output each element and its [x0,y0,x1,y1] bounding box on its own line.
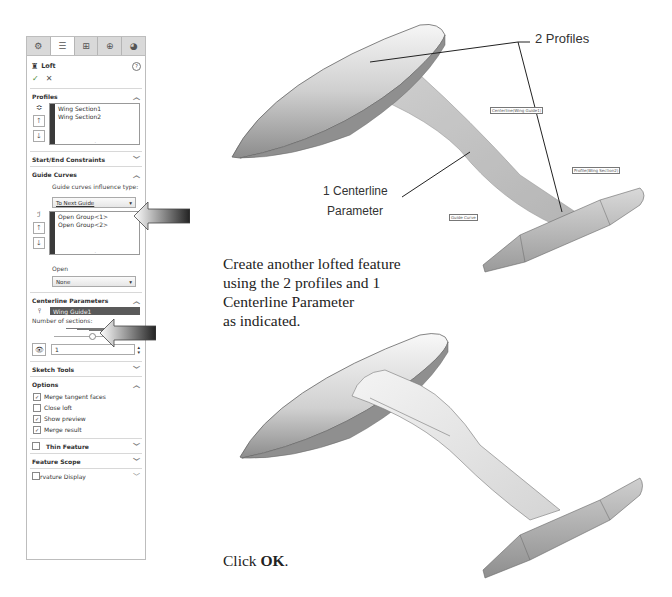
chevron-up-icon: ︿ [133,295,140,305]
loft-property-manager: ⚙ ☰ ⊞ ⊕ ◕ ♜ Loft ? ✓ ✕ Profiles︿ ≎ 🡑 🡓 W… [26,36,146,560]
move-up-button[interactable]: 🡑 [33,115,45,127]
callout-arrow-icon [134,201,190,231]
guide-curves-header[interactable]: Guide Curves︿ [30,167,142,181]
feature-manager-icon: ⚙ [34,41,42,51]
profiles-header[interactable]: Profiles︿ [30,89,142,103]
chevron-down-icon: ﹀ [133,364,140,374]
display-manager-icon: ◕ [130,41,138,51]
open-dropdown[interactable]: None▾ [52,276,136,287]
profiles-list[interactable]: Wing Section1 Wing Section2 · [49,103,140,145]
thin-feature-checkbox[interactable] [32,442,40,450]
profile-icon: ≎ [36,103,43,112]
property-manager-tab[interactable]: ☰ [51,37,75,55]
loft-preview-model [220,0,672,280]
display-manager-tab[interactable]: ◕ [122,37,145,55]
list-item[interactable]: Open Group<1> [58,213,108,221]
move-up-button[interactable]: 🡑 [33,222,45,234]
panel-header: ♜ Loft ? [27,56,145,72]
move-down-button[interactable]: 🡓 [33,130,45,142]
dropdown-arrow-icon: ▾ [129,200,132,206]
close-loft-checkbox[interactable]: Close loft [30,402,142,413]
centerline-annotation-line2: Parameter [327,204,383,218]
merge-result-checkbox[interactable]: ✓Merge result [30,424,142,435]
checkbox-checked-icon[interactable]: ✓ [33,393,41,401]
chevron-up-icon: ︿ [133,91,140,101]
centerline-tag: Centerline(Wing Guide1) [490,107,543,114]
loft-icon: ♜ [31,62,38,71]
help-icon[interactable]: ? [132,62,141,71]
influence-type-dropdown[interactable]: To Next Guide▾ [52,197,136,208]
dropdown-arrow-icon: ▾ [129,279,132,285]
checkbox-checked-icon[interactable]: ✓ [33,426,41,434]
profile-tag: Profile(Wing Section2) [572,167,620,174]
thin-feature-section: Thin Feature﹀ [30,438,142,453]
manager-tabs: ⚙ ☰ ⊞ ⊕ ◕ [27,37,145,56]
profiles-annotation: 2 Profiles [535,31,589,46]
property-manager-icon: ☰ [58,41,66,51]
options-section: Options︿ ✓Merge tangent faces Close loft… [30,376,142,438]
configuration-manager-icon: ⊞ [82,41,90,51]
centerline-selection[interactable]: Wing Guide1 [50,307,140,315]
curvature-display-section: rvature Display﹀ [30,468,142,483]
configuration-manager-tab[interactable]: ⊞ [75,37,99,55]
chevron-down-icon: ﹀ [133,441,140,451]
curvature-display-header[interactable]: rvature Display﹀ [30,469,142,483]
show-preview-checkbox[interactable]: ✓Show preview [30,413,142,424]
chevron-down-icon: ﹀ [133,471,140,481]
curvature-display-checkbox[interactable] [32,472,40,480]
influence-label: Guide curves influence type: [30,181,142,192]
guide-curve-tag: Guide Curve [449,214,478,221]
panel-title: Loft [41,62,132,70]
sketch-tools-section: Sketch Tools﹀ [30,361,142,376]
chevron-down-icon: ﹀ [133,456,140,466]
feature-scope-header[interactable]: Feature Scope﹀ [30,454,142,468]
feature-manager-tab[interactable]: ⚙ [27,37,51,55]
chevron-up-icon: ︿ [133,169,140,179]
start-end-header[interactable]: Start/End Constraints﹀ [30,152,142,166]
open-label: Open [30,263,142,274]
thin-feature-header[interactable]: Thin Feature﹀ [30,439,142,453]
checkbox-unchecked-icon[interactable] [33,404,41,412]
ok-emphasis: OK [260,552,284,569]
guide-curves-list[interactable]: Open Group<1> Open Group<2> · [49,211,140,255]
dimxpert-tab[interactable]: ⊕ [98,37,122,55]
guide-curves-section: Guide Curves︿ Guide curves influence typ… [30,166,142,292]
centerline-annotation-line1: 1 Centerline [323,184,388,198]
callout-arrow-icon [100,318,156,348]
loft-result-model [220,320,672,590]
preview-sections-button[interactable]: 👁 [32,343,46,356]
list-item[interactable]: Open Group<2> [58,221,108,229]
cancel-button[interactable]: ✕ [46,74,53,86]
click-ok-text: Click OK. [223,551,288,570]
options-header[interactable]: Options︿ [30,377,142,391]
ok-button[interactable]: ✓ [32,74,39,86]
centerline-icon: ⫯ [32,307,46,315]
chevron-down-icon: ﹀ [133,154,140,164]
chevron-up-icon: ︿ [133,379,140,389]
checkbox-checked-icon[interactable]: ✓ [33,415,41,423]
profiles-section: Profiles︿ ≎ 🡑 🡓 Wing Section1 Wing Secti… [30,88,142,151]
centerline-header[interactable]: Centerline Parameters︿ [30,293,142,307]
dimxpert-icon: ⊕ [106,41,114,51]
slider-thumb[interactable] [89,333,96,340]
sketch-tools-header[interactable]: Sketch Tools﹀ [30,362,142,376]
feature-scope-section: Feature Scope﹀ [30,453,142,468]
guide-curve-icon: ℐ [37,211,40,219]
list-item[interactable]: Wing Section1 [58,105,101,113]
start-end-constraints-section: Start/End Constraints﹀ [30,151,142,166]
list-item[interactable]: Wing Section2 [58,113,101,121]
move-down-button[interactable]: 🡓 [33,237,45,249]
merge-tangent-faces-checkbox[interactable]: ✓Merge tangent faces [30,391,142,402]
instruction-text: Create another lofted feature using the … [223,254,401,330]
